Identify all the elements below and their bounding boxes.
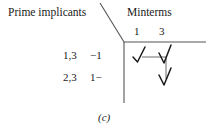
check-mark-row1-col1	[159, 68, 171, 85]
diagonal-axis-divider	[100, 3, 124, 42]
check-mark-row0-col0	[133, 47, 145, 62]
figure-caption: (c)	[98, 112, 110, 123]
check-mark-row0-col1	[159, 45, 171, 63]
prime-implicant-chart-figure: Prime implicants Minterms 1 3 1,3 −1 2,3…	[0, 0, 213, 134]
